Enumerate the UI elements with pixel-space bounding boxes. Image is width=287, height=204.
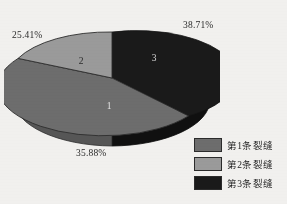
legend-item-3[interactable]: 第3条裂缝 [194, 174, 284, 191]
legend-swatch-2 [194, 157, 222, 171]
legend-label-1: 第1条裂缝 [227, 138, 273, 152]
legend-swatch-1 [194, 138, 222, 152]
legend-swatch-3 [194, 176, 222, 190]
legend-label-2: 第2条裂缝 [227, 157, 273, 171]
pie-slice-1-label: 1 [107, 101, 112, 111]
legend-item-2[interactable]: 第2条裂缝 [194, 155, 284, 172]
pie-slice-2-percent: 25.41% [12, 30, 43, 40]
pie-slice-1-percent: 35.88% [76, 148, 107, 158]
legend-label-3: 第3条裂缝 [227, 176, 273, 190]
legend-item-1[interactable]: 第1条裂缝 [194, 136, 284, 153]
pie-slice-3-label: 3 [152, 53, 157, 63]
pie-slice-3-percent: 38.71% [183, 20, 214, 30]
chart-legend: 第1条裂缝 第2条裂缝 第3条裂缝 [194, 136, 284, 191]
chart-canvas: 1 2 3 25.41% 38.71% 35.88% 第1条裂缝 第2条裂缝 第… [0, 0, 287, 204]
pie-slice-2-label: 2 [79, 56, 84, 66]
